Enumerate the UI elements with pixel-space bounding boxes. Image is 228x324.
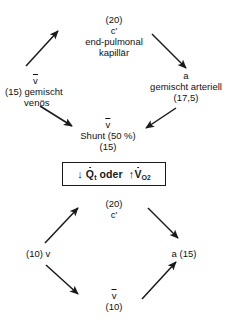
arrow-mixed-venous-to-a-lower [142,262,176,299]
arrow-v-to-mixed-venous-lower [46,265,78,294]
top-venous-symbol-row: v [33,73,63,86]
q-subscript: t [94,174,96,181]
bottom-mv-value: (10) [106,301,123,312]
top-arterial-symbol: a [150,70,222,81]
top-venous-line2: venös [5,97,63,108]
condition-box-text: ↓ Qt oder ↑VO2 [77,168,151,180]
top-capillary-symbol: c' [85,25,143,36]
arrow-capillary-to-a-lower [148,208,178,238]
top-venous-line1: gemischt [25,86,63,97]
bottom-v-node: (10) v [26,248,50,259]
bottom-capillary-symbol: c' [106,209,123,220]
v-subscript-2: 2 [147,174,151,181]
top-capillary-node: (20) c' end-pulmonal kapillär [85,14,143,58]
figure-canvas: (20) c' end-pulmonal kapillär a gemischt… [0,0,228,324]
top-shunt-node: v Shunt (50 %) (15) [80,117,135,152]
bottom-capillary-value: (20) [106,198,123,209]
top-venous-symbol: v [33,73,38,86]
top-venous-main-row: (15) gemischt [5,86,63,97]
bottom-a-node: a (15) [172,248,197,259]
v-bar-overline-shunt: v [106,117,111,130]
bottom-mv-symbol: v [112,288,117,301]
top-capillary-line1: end-pulmonal [85,36,143,47]
top-venous-node: v (15) gemischt venös [5,73,63,108]
top-arterial-node: a gemischt arteriell (17,5) [150,70,222,103]
arrow-capillary-to-arterial [152,34,186,68]
top-venous-value: (15) [5,86,22,97]
v-bar-overline-bottom: v [112,288,117,301]
q-dot-symbol: Q [86,168,94,180]
bottom-v-symbol: v [46,248,51,259]
v-dot-symbol: V [134,168,141,180]
bottom-a-label: a (15) [172,248,197,259]
top-shunt-value: (15) [80,141,135,152]
arrow-arterial-to-shunt [146,108,176,128]
top-shunt-symbol: v [106,117,111,130]
arrow-venous-to-shunt [40,106,72,126]
bottom-capillary-node: (20) c' [106,198,123,220]
bottom-v-value: (10) [26,248,43,259]
arrow-venous-to-capillary [26,31,58,66]
top-arterial-line1: gemischt arteriell [150,81,222,92]
top-shunt-label: Shunt (50 %) [80,130,135,141]
top-shunt-symbol-row: v [80,117,135,130]
top-capillary-value: (20) [85,14,143,25]
box-conjunction: oder [100,168,123,180]
bottom-mv-symbol-row: v [106,288,123,301]
arrow-v-to-capillary-lower [45,208,78,243]
top-capillary-line2: kapillär [85,47,143,58]
condition-box: ↓ Qt oder ↑VO2 [62,162,166,186]
top-arterial-value: (17,5) [150,92,222,103]
bottom-mixed-venous-node: v (10) [106,288,123,312]
v-bar-overline: v [33,73,38,86]
